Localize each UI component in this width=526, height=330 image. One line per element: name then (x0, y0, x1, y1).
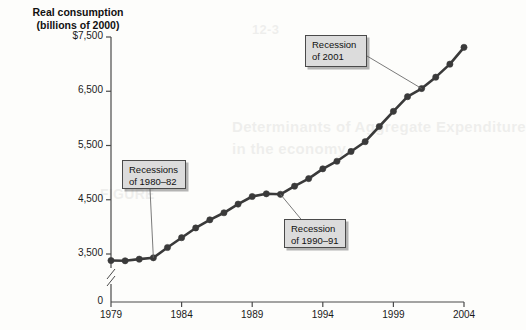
data-point-marker (376, 123, 382, 129)
data-point-marker (461, 44, 467, 50)
x-axis-tick-label: 1994 (303, 309, 343, 320)
x-axis-tick-label: 1989 (232, 309, 272, 320)
data-point-marker (362, 139, 368, 145)
data-point-marker (390, 108, 396, 114)
x-axis-tick-label: 1999 (373, 309, 413, 320)
y-axis-tick-label: 0 (20, 295, 103, 306)
data-point-marker (136, 256, 142, 262)
annotation-recession-2001: Recession of 2001 (305, 35, 367, 67)
data-point-marker (207, 217, 213, 223)
data-point-marker (122, 258, 128, 264)
data-point-marker (235, 201, 241, 207)
data-point-marker (334, 158, 340, 164)
data-point-marker (348, 148, 354, 154)
data-point-marker (306, 175, 312, 181)
annotation-leader-line (367, 56, 422, 89)
data-point-marker (249, 193, 255, 199)
data-point-marker (263, 191, 269, 197)
data-point-marker (193, 225, 199, 231)
y-axis-tick-label: 3,500 (20, 247, 103, 258)
y-axis-tick-label: 5,500 (20, 139, 103, 150)
data-point-marker (164, 244, 170, 250)
data-point-marker (221, 210, 227, 216)
data-point-marker (108, 257, 114, 263)
y-axis-tick-label: $7,500 (20, 30, 103, 41)
y-axis-tick-label: 6,500 (20, 84, 103, 95)
x-axis-tick-label: 1979 (91, 309, 131, 320)
data-point-marker (404, 94, 410, 100)
data-point-marker (447, 61, 453, 67)
annotation-leader-line (150, 189, 153, 258)
data-point-marker (291, 183, 297, 189)
x-axis-tick-label: 2004 (444, 309, 484, 320)
data-point-marker (433, 74, 439, 80)
y-axis-tick-label: 4,500 (20, 193, 103, 204)
annotation-recession-1990-91: Recession of 1990–91 (284, 219, 346, 248)
data-point-marker (179, 235, 185, 241)
data-point-marker (320, 166, 326, 172)
annotation-recessions-1980-82: Recessions of 1980–82 (122, 160, 186, 189)
x-axis-tick-label: 1984 (162, 309, 202, 320)
